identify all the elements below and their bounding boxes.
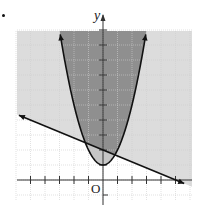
problem-bullet [2, 14, 5, 17]
y-axis-label: y [94, 8, 100, 24]
inequality-graph [0, 0, 199, 207]
y-axis-arrow-icon [101, 14, 106, 21]
origin-label: O [91, 181, 100, 197]
